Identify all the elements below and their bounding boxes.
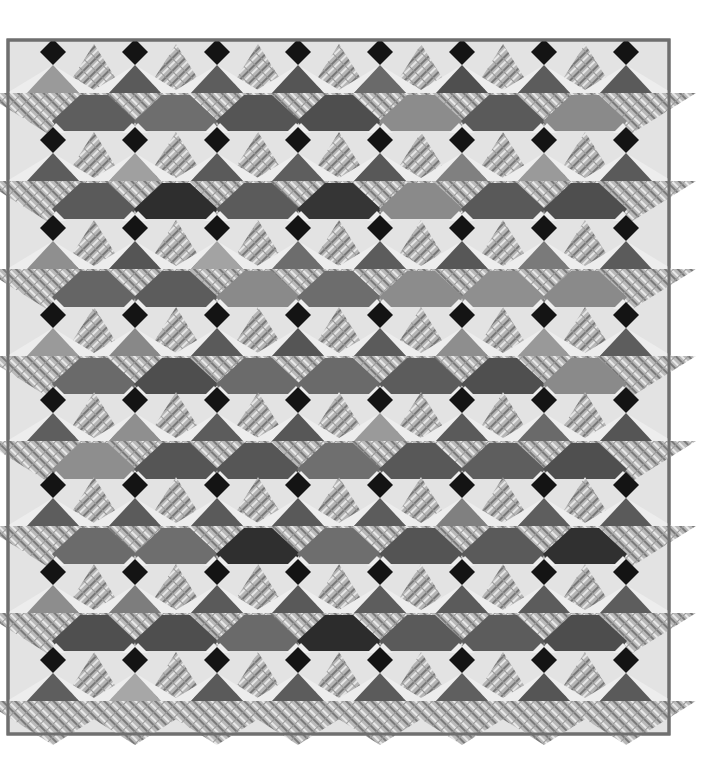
quilt	[0, 39, 696, 745]
quilt-photo	[0, 0, 712, 774]
